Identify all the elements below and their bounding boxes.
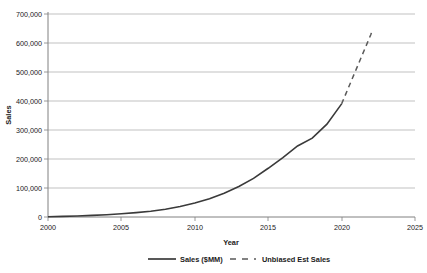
series-line-sales [48,104,342,217]
x-axis-ticks [48,217,415,221]
y-axis-title: Sales [4,105,13,124]
chart-container: 700,000 600,000 500,000 400,000 300,000 … [0,0,427,273]
legend-label-unbiased-est-sales: Unbiased Est Sales [262,255,330,264]
x-tick-label-2005: 2005 [113,223,129,232]
x-axis-title: Year [223,238,239,247]
x-tick-label-2010: 2010 [187,223,203,232]
y-axis-ticks [44,14,48,217]
y-tick-label-700000: 700,000 [16,10,42,19]
legend-label-sales: Sales ($MM) [180,255,223,264]
y-tick-label-100000: 100,000 [16,184,42,193]
y-tick-label-200000: 200,000 [16,155,42,164]
gridlines [48,14,415,188]
x-tick-label-2020: 2020 [334,223,350,232]
x-tick-label-2000: 2000 [40,223,56,232]
y-tick-label-500000: 500,000 [16,68,42,77]
x-tick-label-2015: 2015 [260,223,276,232]
sales-line-chart: 700,000 600,000 500,000 400,000 300,000 … [0,0,427,273]
y-tick-label-400000: 400,000 [16,97,42,106]
y-tick-label-600000: 600,000 [16,39,42,48]
chart-legend: Sales ($MM) Unbiased Est Sales [148,255,330,264]
series-line-unbiased-est-sales [342,29,373,104]
x-tick-label-2025: 2025 [407,223,423,232]
y-tick-label-300000: 300,000 [16,126,42,135]
y-tick-label-0: 0 [38,213,42,222]
